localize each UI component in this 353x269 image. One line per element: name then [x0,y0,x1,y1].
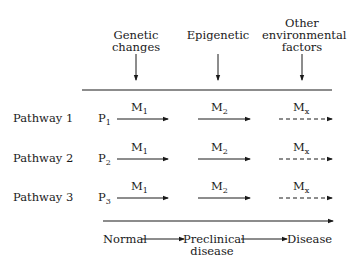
stage-preclinical: Preclinical disease [183,233,241,257]
pathway-2-mx: Mx [293,140,309,156]
stage-normal: Normal [103,232,147,246]
factor-genetic-label: Genetic changes [106,29,166,53]
stage-disease: Disease [287,232,332,246]
pathway-1-m2: M2 [211,100,228,116]
pathway-2-m2: M2 [211,140,228,156]
pathway-3-label: Pathway 3 [13,190,73,204]
pathway-1-m1: M1 [131,100,148,116]
pathway-3-m2: M2 [211,179,228,195]
pathway-1-label: Pathway 1 [13,111,73,125]
pathway-3-mx: Mx [293,179,309,195]
pathway-2-label: Pathway 2 [13,151,73,165]
factor-environmental-label: Other environmental factors [262,17,342,53]
pathway-2-m1: M1 [131,140,148,156]
factor-epigenetic-label: Epigenetic [183,29,253,41]
pathway-3-start: P3 [98,190,111,206]
pathway-1-mx: Mx [293,100,309,116]
pathway-3-m1: M1 [131,179,148,195]
pathway-1-start: P1 [98,111,111,127]
pathway-2-start: P2 [98,151,111,167]
